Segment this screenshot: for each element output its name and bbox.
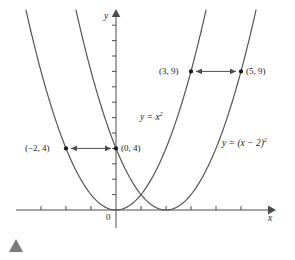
point-label-3-9: (3, 9) [159,67,179,76]
equation-label-parabola-2: y = (x − 2)2 [222,139,267,149]
y-axis-arrowhead [112,9,121,17]
equation-2-text: y = (x − 2) [222,138,264,148]
equation-label-parabola-1: y = x2 [140,113,163,123]
curve-parabola-2 [76,10,256,210]
point-label-0-4: (0, 4) [121,144,141,153]
equation-1-exponent: 2 [160,110,163,117]
equation-1-text: y = x [140,112,160,122]
y-axis-label: y [104,12,108,22]
plot-canvas [0,0,295,260]
x-axis-ticks [41,206,241,210]
point-label-5-9: (5, 9) [246,67,266,76]
origin-label: 0 [106,213,111,222]
point-marker-minus2-4 [64,146,68,150]
translation-arrow-upper [196,69,236,75]
point-marker-3-9 [189,69,193,73]
curves [26,10,256,210]
y-axis-ticks [112,25,116,194]
point-label-minus2-4: (−2, 4) [25,144,50,153]
x-axis-label: x [268,214,272,224]
section-triangle-marker [9,239,23,252]
point-markers [64,69,243,150]
equation-2-exponent: 2 [264,136,267,143]
point-marker-0-4 [114,146,118,150]
translation-arrow-lower [71,146,111,152]
parabola-translation-figure: y x 0 (−2, 4) (0, 4) (3, 9) (5, 9) y = x… [0,0,295,260]
point-marker-5-9 [239,69,243,73]
